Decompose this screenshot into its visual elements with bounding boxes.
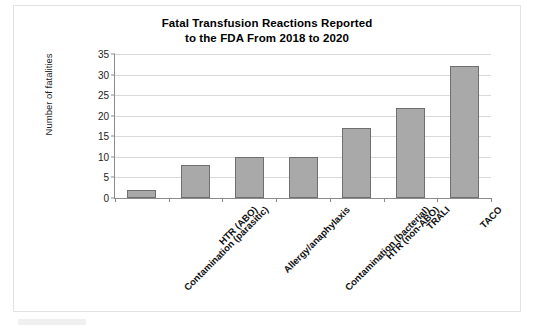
y-tick-mark — [111, 54, 115, 55]
gridline — [115, 95, 491, 96]
y-tick-mark — [111, 74, 115, 75]
y-tick-label: 30 — [98, 69, 109, 80]
y-tick-label: 15 — [98, 131, 109, 142]
bar — [235, 157, 264, 198]
y-tick-mark — [111, 95, 115, 96]
chart-title: Fatal Transfusion Reactions Reported to … — [14, 16, 520, 45]
x-tick-mark — [276, 198, 277, 202]
y-axis-title: Number of fatalities — [43, 25, 54, 165]
bottom-accent-bar — [18, 319, 86, 325]
x-tick-mark — [491, 198, 492, 202]
x-tick-label: HTR (non-ABO) — [383, 204, 440, 261]
x-tick-label: TACO — [478, 204, 504, 230]
x-tick-mark — [169, 198, 170, 202]
bar — [289, 157, 318, 198]
y-tick-mark — [111, 177, 115, 178]
gridline — [115, 116, 491, 117]
chart-figure-frame: Fatal Transfusion Reactions Reported to … — [13, 5, 521, 312]
bar — [127, 190, 156, 198]
x-tick-mark — [384, 198, 385, 202]
bar — [181, 165, 210, 198]
bar — [450, 66, 479, 198]
bar — [342, 128, 371, 198]
x-tick-label: Contamination (parasitic) — [181, 204, 270, 293]
gridline — [115, 54, 491, 55]
y-tick-label: 5 — [103, 172, 109, 183]
bar — [396, 108, 425, 199]
y-tick-mark — [111, 115, 115, 116]
chart-title-line-first: Fatal Transfusion Reactions Reported — [14, 16, 520, 31]
y-tick-label: 25 — [98, 90, 109, 101]
y-tick-label: 10 — [98, 151, 109, 162]
chart-title-line-second: to the FDA From 2018 to 2020 — [14, 31, 520, 46]
x-tick-mark — [115, 198, 116, 202]
y-tick-mark — [111, 156, 115, 157]
x-tick-label: Allergy/anaphylaxis — [281, 204, 352, 275]
x-tick-mark — [330, 198, 331, 202]
x-tick-mark — [437, 198, 438, 202]
x-tick-mark — [222, 198, 223, 202]
gridline — [115, 136, 491, 137]
y-tick-label: 0 — [103, 193, 109, 204]
gridline — [115, 75, 491, 76]
y-tick-label: 35 — [98, 49, 109, 60]
plot-area: 05101520253035Contamination (parasitic)H… — [114, 54, 491, 199]
y-tick-label: 20 — [98, 110, 109, 121]
y-tick-mark — [111, 136, 115, 137]
